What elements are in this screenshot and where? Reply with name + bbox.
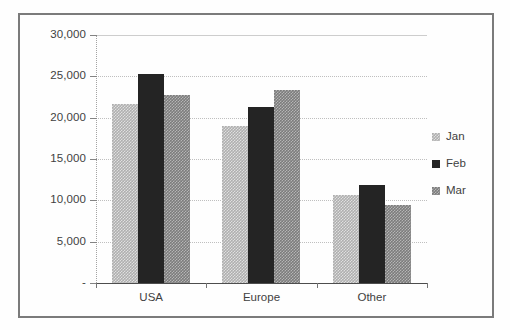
bar-usa-mar[interactable]: [164, 95, 190, 283]
x-axis-tick-label-other: Other: [357, 291, 386, 303]
chart-legend: JanFebMar: [432, 123, 490, 204]
y-axis-labels: 30,00025,00020,00015,00010,0005,000-: [20, 35, 86, 283]
legend-label-mar: Mar: [446, 185, 466, 197]
y-axis-tick-label: 30,000: [24, 29, 86, 41]
x-axis-tick-mark: [96, 283, 97, 288]
x-axis-tick-label-europe: Europe: [243, 291, 280, 303]
bar-other-mar[interactable]: [385, 205, 411, 283]
y-axis-tick-label: 20,000: [24, 112, 86, 124]
chart-frame: 30,00025,00020,00015,00010,0005,000- USA…: [18, 13, 494, 318]
bar-usa-jan[interactable]: [112, 104, 138, 283]
x-axis-tick-mark: [206, 283, 207, 288]
y-axis-tick-mark: [90, 35, 97, 36]
y-axis-tick-label: 15,000: [24, 153, 86, 165]
legend-label-jan: Jan: [446, 131, 465, 143]
bar-usa-feb[interactable]: [138, 74, 164, 283]
x-axis-tick-label-usa: USA: [139, 291, 163, 303]
y-axis-tick-mark: [90, 159, 97, 160]
legend-label-feb: Feb: [446, 158, 466, 170]
bar-europe-feb[interactable]: [248, 107, 274, 283]
y-axis-tick-mark: [90, 242, 97, 243]
y-axis-tick-label: -: [24, 277, 86, 289]
x-axis-line: [96, 283, 427, 284]
y-axis-tick-label: 25,000: [24, 71, 86, 83]
bar-other-jan[interactable]: [333, 195, 359, 283]
legend-swatch-icon-jan: [432, 133, 440, 141]
bar-group-other: [317, 35, 427, 283]
plot-area: [96, 35, 427, 283]
y-axis-tick-mark: [90, 200, 97, 201]
y-axis-tick-label: 5,000: [24, 236, 86, 248]
x-axis-labels: USAEuropeOther: [96, 291, 427, 309]
legend-item-jan[interactable]: Jan: [432, 123, 490, 150]
legend-item-mar[interactable]: Mar: [432, 177, 490, 204]
y-axis-tick-mark: [90, 76, 97, 77]
bar-group-usa: [96, 35, 206, 283]
legend-item-feb[interactable]: Feb: [432, 150, 490, 177]
bar-europe-mar[interactable]: [274, 90, 300, 283]
bar-other-feb[interactable]: [359, 185, 385, 283]
legend-swatch-icon-feb: [432, 160, 440, 168]
x-axis-tick-mark: [427, 283, 428, 288]
bar-group-europe: [206, 35, 316, 283]
y-axis-tick-label: 10,000: [24, 195, 86, 207]
x-axis-tick-mark: [317, 283, 318, 288]
bar-europe-jan[interactable]: [222, 126, 248, 283]
y-axis-tick-mark: [90, 118, 97, 119]
legend-swatch-icon-mar: [432, 187, 440, 195]
